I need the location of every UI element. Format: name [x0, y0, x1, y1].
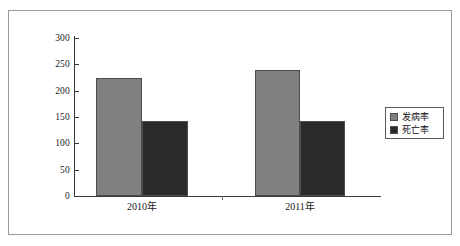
legend-label-incidence: 发病率 — [402, 112, 429, 122]
x-tick-label-2010年: 2010年 — [82, 200, 202, 214]
y-tick-label-text: 0 — [30, 191, 70, 201]
legend-swatch-mortality — [390, 126, 398, 134]
y-tick-label-250: 250 — [26, 59, 70, 69]
y-tick-label-text: 200 — [30, 86, 70, 96]
bar-2011年-发病率 — [255, 70, 300, 196]
y-tick-label-300: 300 — [26, 33, 70, 43]
bar-2010年-死亡率 — [142, 121, 188, 196]
x-axis-middle-tick — [222, 196, 223, 200]
y-tick-300 — [74, 38, 79, 39]
y-tick-150 — [74, 117, 79, 118]
y-tick-label-text: 100 — [30, 138, 70, 148]
y-tick-label-50: 50 — [26, 165, 70, 175]
y-tick-label-100: 100 — [26, 138, 70, 148]
y-tick-250 — [74, 64, 79, 65]
bar-chart-figure: 050100150200250300 2010年2011年 发病率 死亡率 — [0, 0, 460, 246]
y-tick-label-200: 200 — [26, 86, 70, 96]
x-axis-line — [74, 196, 381, 197]
legend-item-incidence: 发病率 — [390, 111, 439, 123]
y-tick-200 — [74, 91, 79, 92]
legend-label-mortality: 死亡率 — [402, 125, 429, 135]
y-tick-0 — [74, 196, 79, 197]
y-tick-50 — [74, 170, 79, 171]
y-tick-label-text: 50 — [30, 165, 70, 175]
y-tick-label-text: 150 — [30, 112, 70, 122]
legend-swatch-incidence — [390, 113, 398, 121]
y-tick-label-text: 300 — [30, 33, 70, 43]
y-tick-100 — [74, 143, 79, 144]
bar-2011年-死亡率 — [300, 121, 345, 196]
y-tick-label-0: 0 — [26, 191, 70, 201]
x-tick-label-2011年: 2011年 — [240, 200, 360, 214]
bar-2010年-发病率 — [96, 78, 142, 197]
y-tick-label-text: 250 — [30, 59, 70, 69]
legend-item-mortality: 死亡率 — [390, 124, 439, 136]
chart-legend: 发病率 死亡率 — [385, 107, 444, 139]
y-tick-label-150: 150 — [26, 112, 70, 122]
